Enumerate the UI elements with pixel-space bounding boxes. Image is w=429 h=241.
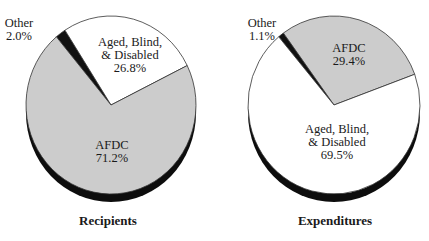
chart-title-recipients: Recipients (79, 213, 137, 228)
slice-label: AFDC71.2% (95, 138, 128, 165)
chart-title-expenditures: Expenditures (298, 213, 372, 228)
slice-label: Other2.0% (5, 16, 34, 43)
slice-label: AFDC29.4% (332, 41, 365, 68)
slice-label: Other1.1% (248, 16, 277, 43)
expenditures-pie: Other1.1%AFDC29.4%Aged, Blind,& Disabled… (248, 16, 420, 228)
pie-charts: Other2.0%Aged, Blind,& Disabled26.8%AFDC… (0, 0, 429, 241)
recipients-pie: Other2.0%Aged, Blind,& Disabled26.8%AFDC… (5, 16, 196, 228)
